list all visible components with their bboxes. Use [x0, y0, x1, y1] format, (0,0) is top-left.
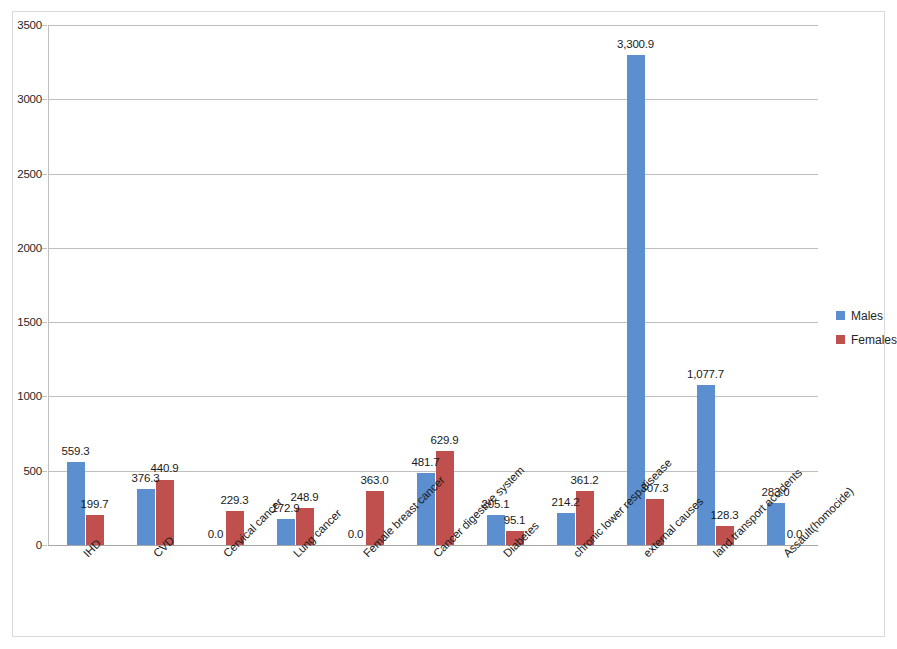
bar-value-label-males: 481.7: [412, 456, 440, 468]
bar-value-label-females: 229.3: [221, 494, 249, 506]
bar-value-label-females: 361.2: [571, 474, 599, 486]
legend-swatch-icon: [836, 311, 845, 320]
bar-value-label-females: 629.9: [431, 434, 459, 446]
legend-item-females[interactable]: Females: [836, 329, 897, 350]
y-tick-mark: [42, 99, 47, 100]
y-tick-label: 3000: [17, 93, 42, 105]
bar-males[interactable]: [137, 489, 155, 545]
bar-group: 1,077.7128.3: [697, 25, 734, 545]
x-axis-category-labels: IHDCVDCervical cancerLung cancerFemale b…: [48, 545, 818, 649]
bar-group: 214.2361.2: [557, 25, 594, 545]
y-axis-tick-labels: 0500100015002000250030003500: [0, 25, 42, 545]
bar-group: 481.7629.9: [417, 25, 454, 545]
bar-males[interactable]: [487, 515, 505, 545]
y-tick-label: 1000: [17, 390, 42, 402]
y-tick-label: 2000: [17, 242, 42, 254]
y-tick-mark: [42, 25, 47, 26]
legend-swatch-icon: [836, 335, 845, 344]
bar-group: 376.3440.9: [137, 25, 174, 545]
bar-value-label-males: 3,300.9: [617, 38, 654, 50]
bar-value-label-females: 95.1: [504, 514, 526, 526]
chart-legend: MalesFemales: [836, 305, 897, 353]
chart-container: 0500100015002000250030003500 559.3199.73…: [0, 0, 897, 649]
y-tick-label: 500: [23, 465, 42, 477]
bar-males[interactable]: [697, 385, 715, 545]
bar-group: 283.00.0: [767, 25, 804, 545]
y-tick-label: 3500: [17, 19, 42, 31]
bar-females[interactable]: [156, 480, 174, 546]
bar-group: 0.0229.3: [207, 25, 244, 545]
bar-value-label-females: 128.3: [711, 509, 739, 521]
bar-value-label-females: 363.0: [361, 474, 389, 486]
bar-males[interactable]: [627, 55, 645, 545]
y-tick-label: 1500: [17, 316, 42, 328]
bar-value-label-females: 440.9: [151, 462, 179, 474]
bar-value-label-males: 1,077.7: [687, 368, 724, 380]
y-tick-mark: [42, 396, 47, 397]
bar-group: 559.3199.7: [67, 25, 104, 545]
bar-value-label-males: 559.3: [62, 445, 90, 457]
y-axis-line: [48, 25, 49, 545]
bar-value-label-males: 214.2: [552, 496, 580, 508]
bar-males[interactable]: [557, 513, 575, 545]
legend-label: Males: [851, 309, 883, 323]
bar-group: 172.9248.9: [277, 25, 314, 545]
y-tick-label: 2500: [17, 168, 42, 180]
bar-value-label-males: 0.0: [348, 528, 363, 540]
y-tick-mark: [42, 322, 47, 323]
legend-label: Females: [851, 333, 897, 347]
y-tick-mark: [42, 248, 47, 249]
bar-group: 0.0363.0: [347, 25, 384, 545]
y-tick-mark: [42, 471, 47, 472]
bar-males[interactable]: [277, 519, 295, 545]
bar-value-label-females: 248.9: [291, 491, 319, 503]
plot-area: 559.3199.7376.3440.90.0229.3172.9248.90.…: [48, 25, 818, 545]
bar-value-label-males: 0.0: [208, 528, 223, 540]
bar-value-label-females: 199.7: [81, 498, 109, 510]
y-tick-mark: [42, 545, 47, 546]
legend-item-males[interactable]: Males: [836, 305, 897, 326]
y-tick-mark: [42, 174, 47, 175]
